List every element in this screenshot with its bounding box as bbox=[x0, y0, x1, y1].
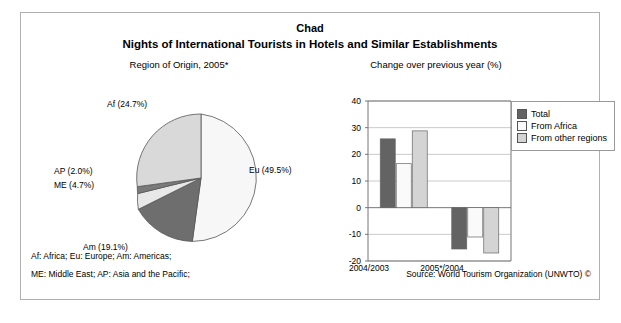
page-title-main: Nights of International Tourists in Hote… bbox=[21, 38, 599, 50]
legend-swatch-from-africa bbox=[517, 121, 527, 131]
bar-total-20042003 bbox=[380, 139, 395, 208]
bar-chart: 403020100-10-20 2004/2003 2005*/2004 Tot… bbox=[326, 75, 601, 275]
pie-label-me: ME (4.7%) bbox=[54, 180, 94, 190]
chart-legend: Total From Africa From other regions bbox=[511, 101, 615, 151]
footnote-line-2: ME: Middle East; AP: Asia and the Pacifi… bbox=[31, 269, 190, 279]
pie-label-af: Af (24.7%) bbox=[107, 99, 147, 109]
footnote-line-1: Af: Africa; Eu: Europe; Am: Americas; bbox=[31, 251, 171, 261]
legend-label-from-other-regions: From other regions bbox=[531, 133, 607, 143]
pie-chart: Af (24.7%) AP (2.0%) ME (4.7%) Am (19.1%… bbox=[21, 75, 321, 260]
legend-swatch-total bbox=[517, 109, 527, 119]
y-axis-tick-label-4: 0 bbox=[339, 203, 361, 213]
x-axis-tick-label-0: 2004/2003 bbox=[329, 263, 409, 273]
bar-from-other-regions-20052004 bbox=[484, 208, 499, 253]
y-axis-tick-label-1: 30 bbox=[339, 123, 361, 133]
legend-item-from-other-regions: From other regions bbox=[517, 133, 607, 143]
y-axis-tick-label-5: -10 bbox=[339, 229, 361, 239]
y-axis-tick-label-0: 40 bbox=[339, 96, 361, 106]
bar-from-africa-20042003 bbox=[396, 164, 411, 208]
legend-item-from-africa: From Africa bbox=[517, 121, 607, 131]
legend-label-total: Total bbox=[531, 109, 550, 119]
chart-card: Chad Nights of International Tourists in… bbox=[20, 12, 600, 300]
bar-from-other-regions-20042003 bbox=[412, 131, 427, 208]
pie-slice-eu bbox=[192, 114, 256, 241]
pie-label-ap: AP (2.0%) bbox=[54, 166, 93, 176]
legend-label-from-africa: From Africa bbox=[531, 121, 577, 131]
y-axis-tick-label-3: 10 bbox=[339, 176, 361, 186]
legend-swatch-from-other-regions bbox=[517, 133, 527, 143]
y-axis-tick-label-2: 20 bbox=[339, 149, 361, 159]
bar-total-20052004 bbox=[452, 208, 467, 249]
legend-item-total: Total bbox=[517, 109, 607, 119]
bar-chart-subtitle: Change over previous year (%) bbox=[321, 59, 551, 70]
source-credit: Source: World Tourism Organization (UNWT… bbox=[406, 269, 591, 279]
pie-chart-subtitle: Region of Origin, 2005* bbox=[69, 59, 289, 70]
page-title-country: Chad bbox=[21, 22, 599, 34]
bar-from-africa-20052004 bbox=[468, 208, 483, 237]
pie-slice-af bbox=[137, 114, 201, 187]
pie-label-eu: Eu (49.5%) bbox=[249, 165, 292, 175]
